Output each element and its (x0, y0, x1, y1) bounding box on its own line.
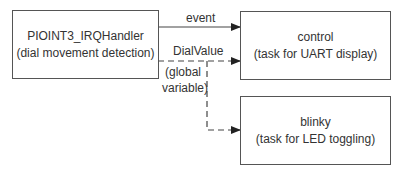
control-box: control (task for UART display) (240, 11, 391, 80)
irq-handler-title: PIOINT3_IRQHandler (27, 28, 144, 45)
global-variable-note-line2: variable) (162, 81, 208, 95)
global-variable-note-line1: (global (165, 65, 201, 79)
blinky-subtitle: (task for LED toggling) (256, 131, 375, 148)
control-title: control (297, 29, 333, 46)
irq-handler-box: PIOINT3_IRQHandler (dial movement detect… (12, 10, 159, 79)
event-label: event (186, 11, 215, 25)
irq-handler-subtitle: (dial movement detection) (16, 45, 154, 62)
blinky-box: blinky (task for LED toggling) (240, 96, 391, 165)
control-subtitle: (task for UART display) (254, 46, 378, 63)
blinky-title: blinky (300, 114, 331, 131)
dialvalue-label: DialValue (173, 44, 223, 58)
dialvalue-arrow-blinky (207, 61, 240, 130)
